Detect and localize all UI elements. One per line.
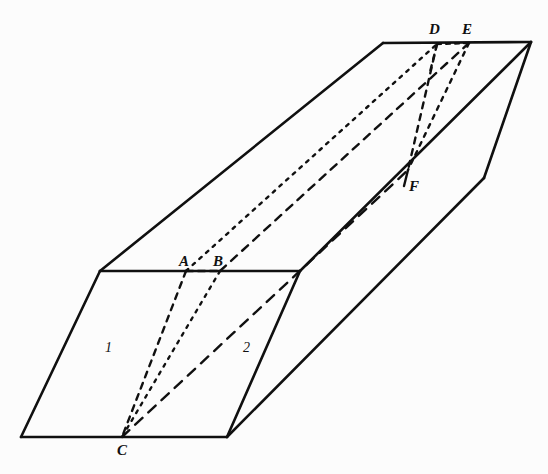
- vertex-label-d: D: [429, 22, 440, 37]
- dashed-edges-group: [122, 43, 469, 437]
- hidden-edge-A-to-D: [186, 44, 437, 271]
- face-label-1: 1: [105, 341, 112, 355]
- vertex-label-a: A: [179, 254, 189, 269]
- vertex-label-b: B: [213, 254, 223, 269]
- hidden-edge-E-to-F: [408, 43, 469, 170]
- vertex-label-f: F: [409, 179, 419, 194]
- figure-canvas: [0, 0, 548, 474]
- vertex-label-e: E: [462, 22, 472, 37]
- geometric-prism-figure: A B C D E F 1 2: [0, 0, 548, 474]
- front-face-left-edge: [21, 271, 100, 437]
- top-face-left-edge: [100, 43, 383, 271]
- hidden-edge-B-to-E: [220, 43, 469, 271]
- face-label-2: 2: [243, 341, 250, 355]
- top-face-right-edge: [300, 42, 531, 271]
- front-face-right-edge: [227, 271, 300, 437]
- solid-edges-group: [21, 42, 531, 437]
- hidden-edge-A-to-C: [122, 271, 186, 437]
- right-face-back-edge: [484, 42, 531, 178]
- vertex-label-c: C: [117, 443, 127, 458]
- hidden-edge-B-to-C: [122, 271, 220, 437]
